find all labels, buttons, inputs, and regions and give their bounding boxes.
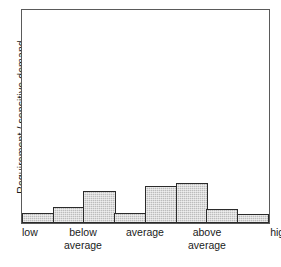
histogram-chart: Requirement / sensitive demand low below… xyxy=(0,0,281,267)
x-tick-above-average-line2: average xyxy=(167,239,247,252)
x-tick-high-label: high xyxy=(270,226,281,238)
bar xyxy=(22,213,54,223)
plot-area xyxy=(21,9,270,224)
bar xyxy=(237,214,269,223)
x-tick-average-label: average xyxy=(126,226,164,238)
x-tick-high: high xyxy=(210,226,281,239)
bottom-clipped-caption xyxy=(21,260,270,267)
x-tick-below-average-line1: below xyxy=(69,226,96,238)
bar-series xyxy=(22,10,269,223)
bar xyxy=(176,183,208,223)
bar xyxy=(114,213,146,223)
bar xyxy=(83,191,115,223)
x-tick-below-average-line2: average xyxy=(43,239,123,252)
bar xyxy=(53,207,85,223)
x-axis-tick-labels: low below average average above average … xyxy=(21,226,270,260)
x-tick-low-label: low xyxy=(22,226,38,238)
bar xyxy=(145,186,177,223)
bar xyxy=(206,209,238,223)
